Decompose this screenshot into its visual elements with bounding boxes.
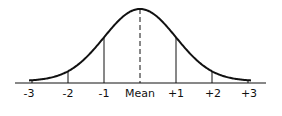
label-mean: Mean [125, 87, 155, 100]
label-plus-1: +1 [168, 87, 184, 100]
label-minus-2: -2 [63, 87, 74, 100]
bell-curve-svg: -3 -2 -1 Mean +1 +2 +3 [0, 0, 282, 116]
label-plus-3: +3 [241, 87, 257, 100]
normal-distribution-diagram: -3 -2 -1 Mean +1 +2 +3 [0, 0, 282, 116]
label-plus-2: +2 [205, 87, 221, 100]
label-minus-1: -1 [99, 87, 110, 100]
axis-labels: -3 -2 -1 Mean +1 +2 +3 [24, 87, 258, 100]
label-minus-3: -3 [24, 87, 35, 100]
